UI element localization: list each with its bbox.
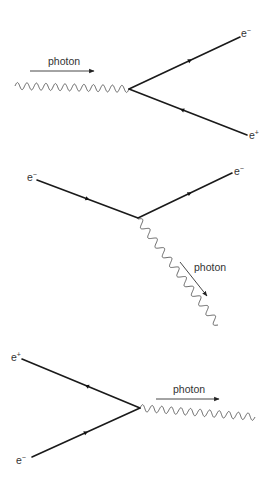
diagram-pair-production: photon e− e+ bbox=[15, 27, 259, 141]
positron-label: e+ bbox=[11, 351, 21, 363]
diagram-photon-emission: e− e− photon bbox=[27, 165, 244, 325]
photon-label: photon bbox=[173, 383, 205, 395]
photon-label: photon bbox=[194, 261, 226, 273]
photon-line bbox=[15, 83, 129, 93]
diagram-annihilation: e+ e− photon bbox=[11, 351, 255, 466]
photon-line bbox=[140, 405, 255, 421]
incoming-electron-label: e− bbox=[27, 171, 37, 183]
electron-line bbox=[129, 37, 240, 89]
positron-label: e+ bbox=[249, 129, 259, 141]
positron-line bbox=[129, 89, 247, 135]
positron-line bbox=[22, 359, 140, 408]
feynman-diagrams-canvas: photon e− e+ e− e− photon e+ e− photon bbox=[0, 0, 272, 485]
photon-label: photon bbox=[48, 55, 80, 67]
electron-label: e− bbox=[16, 454, 26, 466]
outgoing-electron-line bbox=[138, 173, 232, 218]
electron-label: e− bbox=[241, 27, 251, 39]
outgoing-electron-label: e− bbox=[234, 165, 244, 177]
